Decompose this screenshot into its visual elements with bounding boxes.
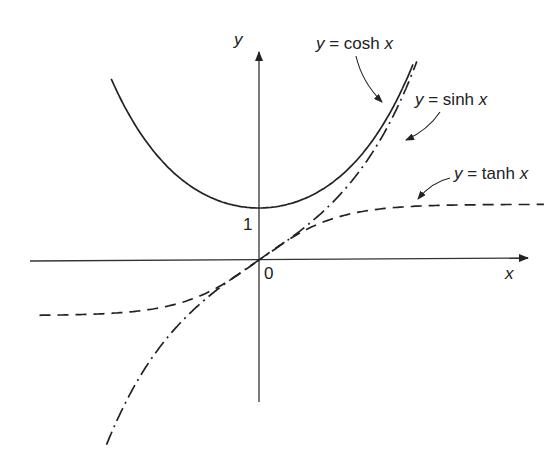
tanh-label: y = tanh x	[454, 164, 528, 184]
tanh-pointer-arrow	[418, 178, 450, 199]
hyperbolic-functions-diagram	[0, 0, 556, 456]
sinh-label: y = sinh x	[415, 90, 487, 110]
cosh-curve	[111, 64, 413, 208]
cosh-pointer-arrow	[356, 56, 382, 102]
x-axis	[30, 258, 528, 261]
x-axis-label: x	[505, 264, 514, 284]
y-axis-label: y	[234, 30, 243, 50]
origin-label: 0	[264, 264, 273, 284]
sinh-pointer-arrow	[406, 112, 440, 140]
sinh-curve	[107, 61, 417, 444]
y-one-tick-label: 1	[243, 215, 252, 235]
cosh-label: y = cosh x	[316, 34, 393, 54]
